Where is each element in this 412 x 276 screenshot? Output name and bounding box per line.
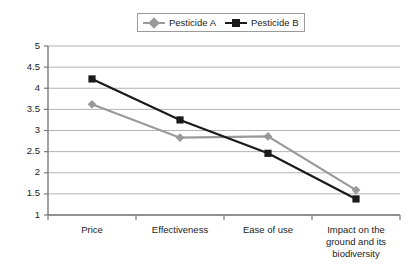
series-lines [92, 79, 356, 199]
data-point-square [352, 195, 359, 202]
x-tick-label: Effectiveness [152, 224, 209, 235]
data-point-square [264, 150, 271, 157]
y-tick-label: 1.5 [27, 187, 40, 198]
y-tick-label: 2 [35, 166, 40, 177]
data-point-square [176, 116, 183, 123]
data-point-diamond [176, 133, 185, 142]
y-tick-label: 4.5 [27, 61, 40, 72]
y-axis [44, 46, 48, 215]
x-tick-label: ground and its [326, 236, 386, 247]
x-tick-label: Price [81, 224, 103, 235]
y-tick-label: 3 [35, 124, 40, 135]
x-tick-label: biodiversity [332, 248, 380, 259]
gridlines [48, 46, 400, 215]
line-chart: Pesticide A Pesticide B 11.522.533.544.5… [0, 0, 412, 276]
x-axis [48, 215, 400, 220]
y-tick-label: 4 [35, 82, 40, 93]
y-tick-label: 3.5 [27, 103, 40, 114]
plot-area: 11.522.533.544.55 PriceEffectivenessEase… [0, 0, 412, 276]
x-tick-label: Ease of use [243, 224, 293, 235]
series-line [92, 79, 356, 199]
x-tick-label: Impact on the [327, 224, 385, 235]
y-tick-label: 5 [35, 40, 40, 51]
y-tick-labels: 11.522.533.544.55 [27, 40, 40, 220]
x-tick-labels: PriceEffectivenessEase of useImpact on t… [81, 224, 386, 259]
series-markers [88, 75, 361, 202]
y-tick-label: 1 [35, 209, 40, 220]
data-point-diamond [88, 100, 97, 109]
data-point-square [88, 75, 95, 82]
y-tick-label: 2.5 [27, 145, 40, 156]
